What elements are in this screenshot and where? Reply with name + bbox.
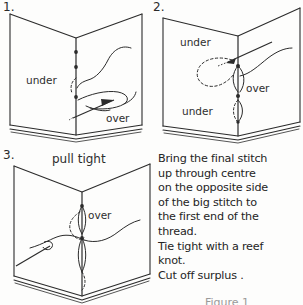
instruction-line: thread. — [158, 225, 303, 240]
instruction-line: Bring the final stitch — [158, 152, 303, 167]
needle-2 — [218, 42, 272, 66]
step-number-3: 3. — [3, 148, 14, 162]
panel2-label-under-bottom: under — [182, 105, 213, 117]
instruction-line: knot. — [158, 254, 303, 269]
thread-upper-curve-1 — [77, 47, 131, 88]
hole-top-2 — [236, 64, 240, 68]
book-top-edge-2 — [163, 8, 300, 36]
thread-tail-curve-2 — [240, 48, 292, 76]
book-top-edge-3 — [14, 164, 150, 192]
step-number-2: 2. — [153, 0, 164, 14]
instruction-line: Cut off surplus . — [158, 269, 303, 284]
panel-1-drawing — [0, 0, 152, 150]
hole-top-3 — [80, 204, 84, 208]
panel1-label-over: over — [106, 112, 129, 124]
thread-lower-right-2 — [238, 100, 243, 122]
panel1-label-under: under — [26, 74, 57, 86]
instruction-line: of the big stitch to — [158, 196, 303, 211]
panel-2-drawing — [150, 0, 303, 150]
panel-step-2: under over under — [150, 0, 303, 150]
panel2-label-over: over — [246, 82, 269, 94]
panel-step-3: pull tight over — [0, 148, 155, 305]
needle-eye-1 — [101, 99, 114, 106]
panel3-label-over: over — [88, 209, 111, 221]
thread-right-pull-3 — [84, 220, 140, 242]
panel3-caption-pull-tight: pull tight — [52, 152, 106, 166]
instruction-line: on the opposite side — [158, 181, 303, 196]
hole-mid-1 — [74, 65, 78, 69]
book-bottom-edge-2 — [163, 122, 300, 136]
instruction-line: up through centre — [158, 167, 303, 182]
hole-low-2 — [236, 120, 239, 123]
needle-tip-2 — [218, 62, 228, 66]
book-bottom-edge-inner-2 — [163, 126, 300, 140]
thread-left-pull-3 — [30, 235, 84, 248]
instruction-line: the first end of the — [158, 210, 303, 225]
hole-low-1 — [74, 95, 78, 99]
panel-step-1: under over — [0, 0, 152, 150]
hole-mid-3 — [80, 236, 84, 240]
needle-3 — [16, 241, 53, 266]
instruction-text-block: Bring the final stitch up through centre… — [158, 152, 303, 305]
hole-top-1 — [74, 50, 78, 54]
thread-over-right-2 — [238, 66, 244, 92]
book-top-edge-1 — [10, 14, 142, 38]
footer-partial-caption: Figure 1 — [205, 296, 275, 305]
panel2-label-under-top: under — [180, 36, 211, 48]
thread-lower-left-dashed-2 — [234, 100, 239, 122]
instruction-line: Tie tight with a reef — [158, 240, 303, 255]
step-number-1: 1. — [3, 0, 14, 14]
hole-mid-2 — [236, 94, 240, 98]
thread-dashed-behind-1 — [71, 78, 76, 93]
panel-3-drawing — [0, 148, 155, 305]
thread-over-left-2 — [233, 66, 238, 92]
